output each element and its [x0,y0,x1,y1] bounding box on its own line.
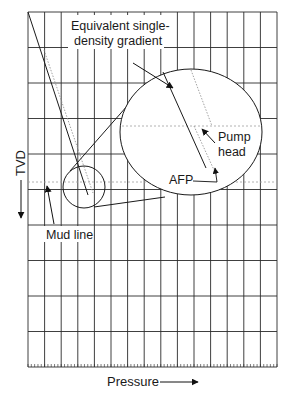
tvd-pressure-diagram: Equivalent single- density gradient Pump… [0,0,291,395]
mud-line-arrow-icon [47,186,54,224]
pump-head-label-line2: head [218,145,246,159]
equivalent-gradient-label-line2: density gradient [74,34,163,48]
y-axis-label-tvd: TVD [13,150,28,176]
afp-label: AFP [169,173,193,187]
magnify-connector-lower [94,197,165,207]
x-axis-label-pressure: Pressure [107,374,159,389]
mud-line-label: Mud line [46,228,93,242]
seawater-gradient-dotted-line [44,50,93,193]
equivalent-gradient-label-line1: Equivalent single- [71,19,170,33]
grid [28,12,277,367]
detail-circle-small [63,166,105,208]
pump-head-label-line1: Pump [218,130,251,144]
